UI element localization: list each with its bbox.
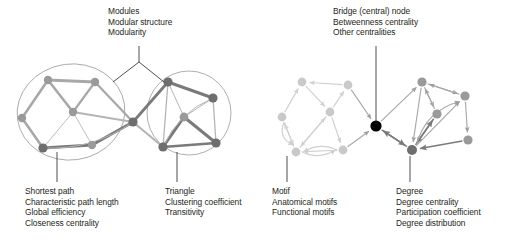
directed-edge [429,84,459,94]
annotation-line: Degree centrality [396,197,481,208]
shortest-path-annotation: Shortest pathCharacteristic path lengthG… [25,186,119,228]
network-node [292,148,301,157]
degree-annotation: DegreeDegree centralityParticipation coe… [396,186,481,228]
annotation-line: Closeness centrality [25,218,119,229]
directed-edge [425,89,434,109]
network-node [180,113,189,122]
network-node [326,108,335,117]
annotation-line: Bridge (central) node [333,6,418,17]
network-node [463,135,472,144]
directed-edge [332,117,341,143]
network-node [69,108,77,116]
annotation-line: Modules [108,6,172,17]
directed-edge [306,86,325,106]
leader-modules-left-branch [113,62,139,82]
annotation-line: Degree distribution [396,218,481,229]
leader-lines [57,46,410,182]
bridge-annotation: Bridge (central) nodeBetweenness central… [333,6,418,38]
network-edge [43,112,73,148]
network-node [18,114,26,122]
network-edge [22,80,48,118]
triangle-annotation: TriangleClustering coefficientTransitivi… [165,186,242,218]
annotation-line: Triangle [165,186,242,197]
network-node [163,77,172,86]
modular-undirected-network [11,57,231,167]
annotation-line: Shortest path [25,186,119,197]
directed-edge [348,131,369,147]
directed-edge [300,118,325,148]
network-edge [163,82,168,147]
network-edge [48,80,73,112]
network-edge [73,112,92,145]
annotation-line: Modularity [108,27,172,38]
annotation-line: Anatomical motifs [272,197,337,208]
leader-modules-right-branch [139,62,164,82]
annotation-line: Characteristic path length [25,197,119,208]
triangle-arc [163,98,213,147]
directed-edge [310,82,343,84]
network-node [417,77,426,86]
annotation-line: Motif [272,186,337,197]
network-node [44,76,52,84]
graph-theory-figure: ModulesModular structureModularityBridge… [0,0,508,243]
network-node [158,142,167,151]
network-node [407,145,417,155]
network-node [298,78,307,87]
annotation-line: Degree [396,186,481,197]
directed-edge [416,102,459,146]
directed-edge [383,131,407,147]
network-node [91,78,99,86]
annotation-line: Participation coefficient [396,207,481,218]
directed-edge [284,122,293,145]
network-node [38,143,47,152]
modules-annotation: ModulesModular structureModularity [108,6,172,38]
network-edge [163,117,184,147]
annotation-line: Transitivity [165,207,242,218]
annotation-line: Global efficiency [25,207,119,218]
network-edge [184,98,213,117]
network-node [344,81,353,90]
annotation-line: Other centralities [333,27,418,38]
network-node [128,117,137,126]
network-edge [133,82,168,122]
directed-motif-network [278,77,473,156]
network-node [211,138,220,147]
directed-edge [285,89,298,113]
network-edge [184,117,216,143]
network-edge [73,82,95,112]
directed-edge [420,141,462,149]
directed-edge [333,91,344,107]
network-node [88,141,96,149]
annotation-line: Clustering coefficient [165,197,242,208]
network-edge [133,122,163,147]
network-edge [48,80,95,82]
directed-edge [465,102,467,132]
network-edge [163,143,216,147]
network-node [432,109,441,118]
directed-edge [351,90,371,119]
annotation-line: Betweenness centrality [333,17,418,28]
annotation-line: Functional motifs [272,207,337,218]
network-node [208,93,217,102]
directed-edge [381,87,416,121]
network-edge [213,98,216,143]
network-node [339,146,348,155]
network-node [460,91,469,100]
motif-annotation: MotifAnatomical motifsFunctional motifs [272,186,337,218]
network-edge [22,118,43,148]
network-node [278,113,287,122]
annotation-line: Modular structure [108,17,172,28]
